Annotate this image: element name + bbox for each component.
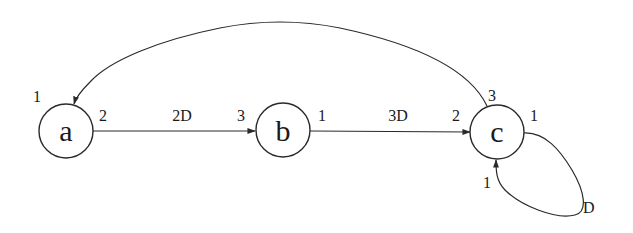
edge-label-a-b: 2D xyxy=(172,107,192,124)
node-a-label: a xyxy=(59,114,72,147)
port-label-c-bottom: 1 xyxy=(483,174,491,191)
port-label-b-left: 3 xyxy=(237,107,245,124)
node-b-label: b xyxy=(276,114,291,147)
port-label-a-top: 1 xyxy=(33,88,41,105)
node-b: b xyxy=(256,103,310,157)
port-label-c-right: 1 xyxy=(530,107,538,124)
port-label-a-right: 2 xyxy=(99,107,107,124)
node-a: a xyxy=(39,104,93,158)
port-label-c-top: 3 xyxy=(488,87,496,104)
port-graph-diagram: a b c 1 2 3 1 2 3 1 1 2D 3D D xyxy=(0,0,633,233)
edge-c-to-a-arc xyxy=(74,22,487,106)
node-c-label: c xyxy=(490,115,503,148)
edge-b-to-c xyxy=(310,131,470,132)
edge-label-self-loop: D xyxy=(583,199,595,216)
edge-label-b-c: 3D xyxy=(388,107,408,124)
node-c: c xyxy=(470,105,524,159)
port-label-c-left: 2 xyxy=(452,107,460,124)
port-label-b-right: 1 xyxy=(318,107,326,124)
